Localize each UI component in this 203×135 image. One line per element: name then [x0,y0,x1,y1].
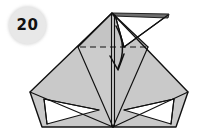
step-number-label: 20 [17,18,39,33]
origami-step-figure: 20 [0,0,203,135]
step-number-badge: 20 [9,7,46,44]
